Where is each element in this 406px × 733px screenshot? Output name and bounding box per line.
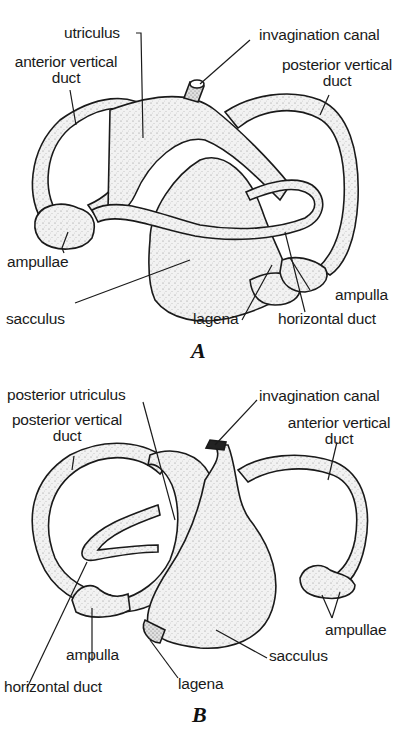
label-ampullae-a: ampullae — [7, 254, 68, 270]
label-invagination-canal-b: invagination canal — [259, 388, 380, 404]
label-line: duct — [52, 69, 81, 86]
label-sacculus-b: sacculus — [269, 648, 328, 664]
label-line: duct — [323, 72, 352, 89]
invagination-canal-b — [206, 440, 226, 450]
panel-letter-b: B — [192, 702, 207, 728]
label-ampulla-a: ampulla — [335, 287, 388, 303]
label-ampulla-b: ampulla — [66, 647, 119, 663]
panel-letter-a: A — [191, 338, 206, 364]
label-horizontal-duct-a: horizontal duct — [278, 311, 376, 327]
label-line: posterior vertical — [282, 56, 392, 73]
label-posterior-vertical-duct-b: posterior vertical duct — [4, 412, 130, 444]
label-line: posterior vertical — [12, 411, 122, 428]
label-line: duct — [53, 427, 82, 444]
label-line: anterior vertical — [288, 414, 391, 431]
horizontal-duct-b — [82, 505, 160, 560]
label-posterior-utriculus-b: posterior utriculus — [7, 387, 126, 403]
label-anterior-vertical-duct-a: anterior vertical duct — [6, 54, 126, 86]
label-anterior-vertical-duct-b: anterior vertical duct — [276, 415, 402, 447]
label-sacculus-a: sacculus — [6, 311, 65, 327]
panel-a-drawing — [32, 94, 358, 321]
label-invagination-canal-a: invagination canal — [259, 27, 380, 43]
panel-b-drawing — [32, 443, 367, 648]
label-line: anterior vertical — [15, 53, 118, 70]
posterior-vertical-duct-b — [32, 443, 170, 608]
label-ampullae-b: ampullae — [325, 622, 386, 638]
ampulla-b-left — [72, 586, 130, 617]
label-lagena-b: lagena — [178, 676, 223, 692]
label-horizontal-duct-b: horizontal duct — [4, 679, 102, 695]
label-utriculus-a: utriculus — [64, 25, 120, 41]
label-posterior-vertical-duct-a: posterior vertical duct — [272, 57, 402, 89]
label-lagena-a: lagena — [193, 311, 238, 327]
label-line: duct — [325, 430, 354, 447]
